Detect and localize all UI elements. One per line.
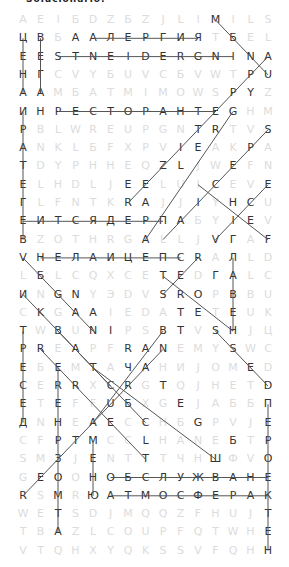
grid-cell[interactable]: N: [102, 450, 120, 468]
grid-cell[interactable]: R: [49, 377, 67, 395]
grid-cell[interactable]: Q: [119, 542, 137, 560]
grid-cell[interactable]: F: [102, 139, 120, 157]
grid-cell[interactable]: Я: [189, 29, 207, 47]
grid-cell[interactable]: М: [137, 487, 155, 505]
grid-cell[interactable]: E: [102, 48, 120, 66]
grid-cell[interactable]: V: [207, 231, 225, 249]
grid-cell[interactable]: А: [102, 487, 120, 505]
grid-cell[interactable]: Е: [137, 249, 155, 267]
grid-cell[interactable]: W: [32, 322, 50, 340]
grid-cell[interactable]: E: [119, 304, 137, 322]
grid-cell[interactable]: Z: [137, 11, 155, 29]
grid-cell[interactable]: С: [172, 249, 190, 267]
grid-cell[interactable]: T: [102, 84, 120, 102]
grid-cell[interactable]: A: [172, 432, 190, 450]
grid-cell[interactable]: J: [242, 414, 260, 432]
grid-cell[interactable]: Т: [259, 505, 277, 523]
grid-cell[interactable]: L: [154, 231, 172, 249]
grid-cell[interactable]: H: [207, 505, 225, 523]
grid-cell[interactable]: Е: [14, 359, 32, 377]
grid-cell[interactable]: Е: [32, 469, 50, 487]
grid-cell[interactable]: A: [137, 194, 155, 212]
grid-cell[interactable]: С: [84, 103, 102, 121]
grid-cell[interactable]: M: [49, 84, 67, 102]
grid-cell[interactable]: Y: [207, 194, 225, 212]
grid-cell[interactable]: G: [14, 469, 32, 487]
grid-cell[interactable]: T: [189, 121, 207, 139]
grid-cell[interactable]: L: [259, 29, 277, 47]
grid-cell[interactable]: Z: [259, 84, 277, 102]
grid-cell[interactable]: А: [224, 267, 242, 285]
grid-cell[interactable]: Н: [84, 469, 102, 487]
grid-cell[interactable]: R: [119, 377, 137, 395]
grid-cell[interactable]: Н: [32, 103, 50, 121]
grid-cell[interactable]: Г: [224, 231, 242, 249]
grid-cell[interactable]: Б: [84, 139, 102, 157]
grid-cell[interactable]: Е: [14, 176, 32, 194]
grid-cell[interactable]: К: [259, 487, 277, 505]
grid-cell[interactable]: G: [49, 286, 67, 304]
grid-cell[interactable]: Н: [224, 322, 242, 340]
grid-cell[interactable]: Е: [32, 48, 50, 66]
grid-cell[interactable]: C: [119, 414, 137, 432]
grid-cell[interactable]: T: [137, 450, 155, 468]
grid-cell[interactable]: Б: [32, 359, 50, 377]
grid-cell[interactable]: Б: [172, 66, 190, 84]
grid-cell[interactable]: C: [102, 432, 120, 450]
grid-cell[interactable]: E: [242, 212, 260, 230]
grid-cell[interactable]: J: [154, 11, 172, 29]
grid-cell[interactable]: J: [67, 450, 85, 468]
grid-cell[interactable]: Е: [259, 414, 277, 432]
grid-cell[interactable]: Р: [242, 66, 260, 84]
grid-cell[interactable]: G: [154, 121, 172, 139]
grid-cell[interactable]: S: [207, 84, 225, 102]
grid-cell[interactable]: E: [242, 29, 260, 47]
grid-cell[interactable]: J: [189, 157, 207, 175]
grid-cell[interactable]: U: [67, 322, 85, 340]
grid-cell[interactable]: Е: [119, 212, 137, 230]
grid-cell[interactable]: Б: [172, 414, 190, 432]
grid-cell[interactable]: U: [242, 304, 260, 322]
grid-cell[interactable]: A: [259, 139, 277, 157]
grid-cell[interactable]: V: [67, 66, 85, 84]
grid-cell[interactable]: K: [49, 139, 67, 157]
grid-cell[interactable]: R: [84, 121, 102, 139]
grid-cell[interactable]: F: [189, 505, 207, 523]
grid-cell[interactable]: Б: [67, 11, 85, 29]
grid-cell[interactable]: E: [119, 176, 137, 194]
grid-cell[interactable]: В: [207, 469, 225, 487]
grid-cell[interactable]: Y: [84, 66, 102, 84]
grid-cell[interactable]: C: [14, 432, 32, 450]
grid-cell[interactable]: А: [32, 84, 50, 102]
grid-cell[interactable]: C: [102, 377, 120, 395]
grid-cell[interactable]: E: [172, 340, 190, 358]
grid-cell[interactable]: U: [137, 523, 155, 541]
grid-cell[interactable]: C: [154, 66, 172, 84]
grid-cell[interactable]: H: [49, 176, 67, 194]
grid-cell[interactable]: Ц: [119, 249, 137, 267]
grid-cell[interactable]: P: [224, 84, 242, 102]
grid-cell[interactable]: D: [259, 377, 277, 395]
grid-cell[interactable]: X: [119, 139, 137, 157]
grid-cell[interactable]: W: [207, 66, 225, 84]
grid-cell[interactable]: F: [259, 231, 277, 249]
grid-cell[interactable]: E: [119, 157, 137, 175]
grid-cell[interactable]: S: [32, 487, 50, 505]
grid-cell[interactable]: T: [224, 66, 242, 84]
grid-cell[interactable]: U: [102, 395, 120, 413]
grid-cell[interactable]: F: [172, 523, 190, 541]
grid-cell[interactable]: L: [67, 139, 85, 157]
grid-cell[interactable]: T: [32, 395, 50, 413]
grid-cell[interactable]: Е: [14, 395, 32, 413]
grid-cell[interactable]: S: [259, 121, 277, 139]
grid-cell[interactable]: Z: [102, 11, 120, 29]
grid-cell[interactable]: О: [259, 450, 277, 468]
grid-cell[interactable]: V: [137, 66, 155, 84]
grid-cell[interactable]: M: [224, 359, 242, 377]
grid-cell[interactable]: В: [14, 231, 32, 249]
grid-cell[interactable]: Б: [224, 432, 242, 450]
grid-cell[interactable]: C: [137, 414, 155, 432]
grid-cell[interactable]: L: [14, 267, 32, 285]
grid-cell[interactable]: H: [242, 542, 260, 560]
grid-cell[interactable]: Б: [119, 395, 137, 413]
